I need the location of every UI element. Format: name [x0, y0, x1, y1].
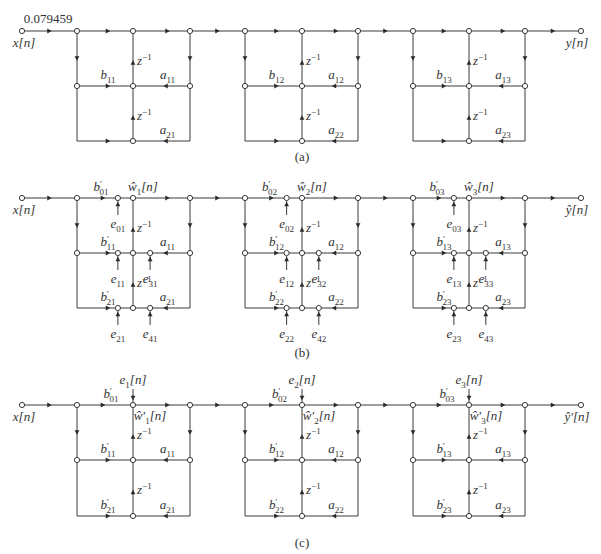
arrow-icon: [165, 196, 170, 201]
coef-b2-label: b'22: [269, 497, 284, 515]
arrow-icon: [523, 430, 528, 435]
arrow-icon: [316, 312, 321, 317]
coef-a1-label: a12: [328, 67, 344, 85]
coef-a2-label: a21: [160, 122, 176, 140]
section-1: z−1z−1b11a11a21: [74, 28, 192, 143]
arrow-icon: [188, 223, 193, 228]
state-w-label: ŵ3[n]: [464, 179, 494, 197]
arrow-icon: [148, 312, 153, 317]
arrow-icon: [451, 257, 456, 262]
panel-a: x[n]y[n]0.079459z−1z−1b11a11a21z−1z−1b12…: [12, 11, 588, 164]
node: [466, 402, 471, 407]
arrow-icon: [467, 282, 472, 287]
coef-b2-label: b'21: [100, 289, 115, 307]
error-e1-label: e13: [446, 271, 461, 289]
delay-z-inverse-label: z−1: [472, 107, 488, 123]
delay-z-inverse-label: z−1: [305, 219, 321, 235]
arrow-icon: [75, 56, 80, 61]
output-node: [578, 28, 583, 33]
arrow-icon: [106, 139, 111, 144]
node: [299, 305, 304, 310]
error-node: [148, 250, 153, 255]
arrow-icon: [165, 29, 170, 34]
node: [410, 195, 415, 200]
coef-a1-label: a13: [495, 441, 511, 459]
coef-b2-label: b'23: [436, 289, 452, 307]
section-3: z−1z−1b'13a13a23b'23b'03e3[n]ŵ′3[n]: [410, 372, 527, 519]
arrow-icon: [115, 202, 120, 207]
arrow-icon: [131, 434, 136, 439]
arrow-icon: [467, 60, 472, 65]
coef-a2-label: a22: [328, 497, 344, 515]
node: [187, 28, 192, 33]
arrow-icon: [300, 396, 305, 401]
node: [74, 457, 79, 462]
node: [299, 83, 304, 88]
state-w-label: ŵ2[n]: [297, 179, 327, 197]
arrow-icon: [131, 282, 136, 287]
error-e0-label: e01: [110, 216, 125, 234]
node: [187, 402, 192, 407]
arrow-icon: [383, 196, 388, 201]
arrow-icon: [131, 490, 136, 495]
delay-z-inverse-label: z−1: [305, 107, 321, 123]
arrow-icon: [523, 56, 528, 61]
delay-z-inverse-label: z−1: [136, 219, 152, 235]
node: [130, 83, 135, 88]
node: [299, 28, 304, 33]
arrow-icon: [75, 223, 80, 228]
arrow-icon: [551, 196, 556, 201]
arrow-icon: [467, 396, 472, 401]
delay-z-inverse-label: z−1: [136, 107, 152, 123]
node: [130, 513, 135, 518]
arrow-icon: [442, 139, 447, 144]
error-e4-label: e43: [478, 326, 493, 344]
error-node: [284, 305, 289, 310]
error-e2-label: e22: [279, 326, 294, 344]
node: [410, 402, 415, 407]
node: [130, 457, 135, 462]
arrow-icon: [356, 223, 361, 228]
coef-b0-label: b'01: [103, 386, 118, 404]
error-node: [115, 250, 120, 255]
coef-a2-label: a23: [495, 497, 511, 515]
coef-b0-label: b'01: [93, 179, 108, 197]
node: [74, 83, 79, 88]
arrow-icon: [551, 29, 556, 34]
arrow-icon: [131, 227, 136, 232]
arrow-icon: [274, 139, 279, 144]
arrow-icon: [115, 312, 120, 317]
arrow-icon: [131, 115, 136, 120]
arrow-icon: [215, 403, 220, 408]
delay-z-inverse-label: z−1: [472, 52, 488, 68]
node: [130, 402, 135, 407]
coef-b0-label: b'03: [429, 179, 445, 197]
coef-b1-label: b'11: [101, 234, 116, 252]
output-label: ŷ[n]: [564, 202, 588, 217]
coef-a1-label: a12: [328, 441, 344, 459]
arrow-icon: [47, 29, 52, 34]
arrow-icon: [467, 434, 472, 439]
delay-z-inverse-label: z−1: [305, 481, 321, 497]
state-w-label: ŵ1[n]: [128, 179, 158, 197]
node: [299, 138, 304, 143]
panel-caption: (a): [295, 149, 309, 164]
arrow-icon: [451, 312, 456, 317]
signal-flow-diagram: x[n]y[n]0.079459z−1z−1b11a11a21z−1z−1b12…: [0, 0, 601, 554]
error-node: [483, 250, 488, 255]
arrow-icon: [243, 223, 248, 228]
node: [242, 250, 247, 255]
delay-z-inverse-label: z−1: [136, 426, 152, 442]
arrow-icon: [131, 396, 136, 401]
coef-a2-label: a22: [328, 122, 344, 140]
error-e1-label: e11: [111, 271, 125, 289]
section-2: z−1z−1b'12a12a22b'22b'02ŵ2[n]e02e12e32e2…: [242, 179, 360, 344]
error-node: [316, 250, 321, 255]
output-node: [578, 195, 583, 200]
error-e2-label: e23: [446, 326, 461, 344]
error-node: [316, 305, 321, 310]
arrow-icon: [483, 312, 488, 317]
arrow-icon: [467, 115, 472, 120]
arrow-icon: [47, 403, 52, 408]
arrow-icon: [188, 56, 193, 61]
